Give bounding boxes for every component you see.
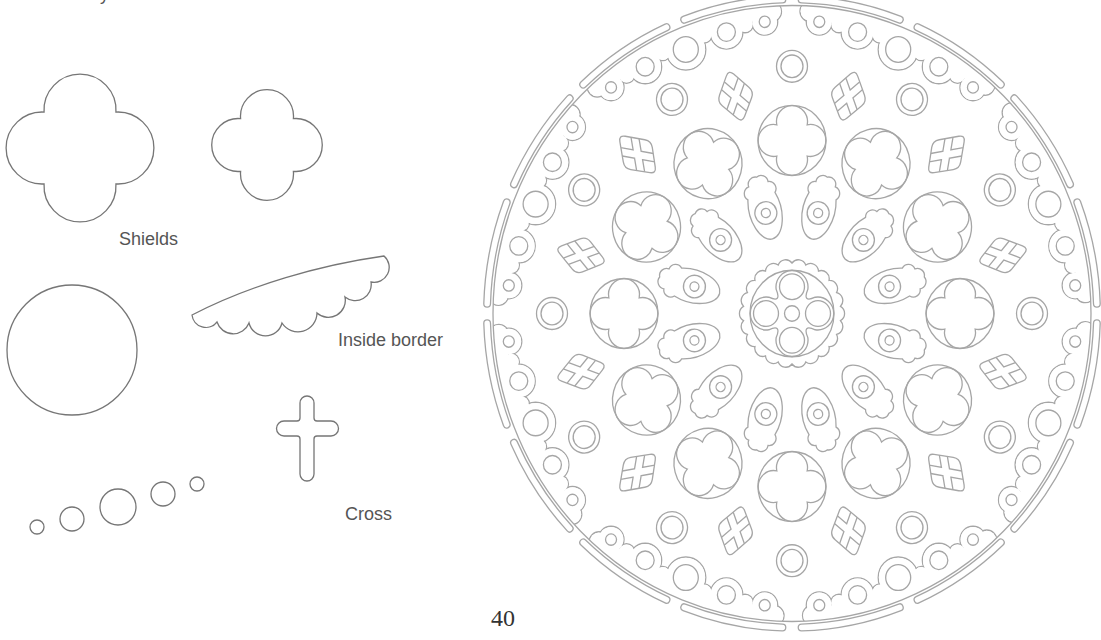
double-ring xyxy=(1017,298,1048,330)
cross-label: Cross xyxy=(345,505,392,523)
double-ring xyxy=(891,78,933,122)
eye-motif xyxy=(796,172,843,243)
dot-medium xyxy=(151,482,175,506)
dot-small xyxy=(30,520,44,534)
x-kite xyxy=(554,232,609,279)
eye-motif xyxy=(860,317,929,366)
quatrefoil-panel xyxy=(590,278,658,348)
x-kite xyxy=(713,503,758,560)
shield-small-shape xyxy=(212,90,323,201)
eye-motif xyxy=(683,356,750,425)
double-ring xyxy=(651,506,693,550)
dot-large xyxy=(100,489,136,525)
eye-motif xyxy=(834,201,901,270)
eye-motif xyxy=(860,261,929,310)
quatrefoil-panel xyxy=(830,416,923,512)
double-ring xyxy=(563,168,605,212)
outer-bar-ring xyxy=(487,0,1097,627)
rose-window xyxy=(487,0,1097,627)
x-kite xyxy=(609,125,667,185)
double-ring xyxy=(979,415,1021,459)
quatrefoil-panel xyxy=(600,179,693,275)
x-kite xyxy=(826,503,871,560)
quatrefoil-panel xyxy=(758,452,826,522)
quatrefoil-panel xyxy=(758,105,826,175)
quatrefoil-panel xyxy=(830,116,923,212)
quatrefoil-panel xyxy=(891,179,984,275)
cross-shape xyxy=(277,396,339,481)
quatrefoil-panel xyxy=(600,352,693,448)
x-kite xyxy=(976,232,1031,279)
page-number: 40 xyxy=(491,606,515,630)
rose-outer-circle xyxy=(493,6,1091,622)
quatrefoil-panel xyxy=(662,416,755,512)
quatrefoil-panel xyxy=(662,116,755,212)
eye-motif xyxy=(655,317,724,366)
pattern-page-artwork xyxy=(0,0,1101,640)
double-ring xyxy=(777,545,808,577)
pattern-pieces xyxy=(6,74,389,534)
quatrefoil-panel xyxy=(891,352,984,448)
x-kite xyxy=(826,68,871,125)
x-kite xyxy=(713,68,758,125)
eye-motif xyxy=(683,201,750,270)
center-medallion xyxy=(739,260,844,367)
x-kite xyxy=(918,443,976,503)
shields-label: Shields xyxy=(119,230,178,248)
dot-medium xyxy=(60,507,84,531)
x-kite xyxy=(976,348,1031,395)
inside-border-band xyxy=(489,1,1096,626)
inside-border-label: Inside border xyxy=(338,331,443,349)
double-ring xyxy=(563,415,605,459)
inside-border-shape xyxy=(192,256,389,336)
cut-off-heading-fragment: y xyxy=(100,0,109,3)
double-ring xyxy=(979,168,1021,212)
large-circle-shape xyxy=(7,285,137,415)
eye-motif xyxy=(655,261,724,310)
quatrefoil-panel xyxy=(926,278,994,348)
x-kite xyxy=(609,443,667,503)
double-ring xyxy=(777,50,808,82)
dot-small xyxy=(190,477,204,491)
double-ring xyxy=(537,298,568,330)
eye-motif xyxy=(741,172,788,243)
eye-motif xyxy=(796,384,843,455)
eye-motif xyxy=(834,356,901,425)
double-ring xyxy=(651,78,693,122)
eye-motif xyxy=(741,384,788,455)
graduated-dots xyxy=(30,477,204,534)
double-ring xyxy=(891,506,933,550)
shield-large-shape xyxy=(6,74,154,222)
x-kite xyxy=(918,125,976,185)
x-kite xyxy=(554,348,609,395)
